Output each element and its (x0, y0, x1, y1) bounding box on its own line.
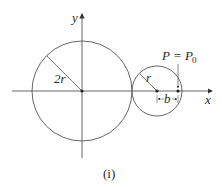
origin-dot (80, 89, 83, 92)
point-label: P = P (161, 48, 193, 63)
large-radius-label: 2r (54, 71, 67, 86)
x-axis-label: x (204, 92, 211, 107)
point-p (176, 89, 179, 92)
point-label-subscript: 0 (192, 55, 197, 65)
figure-caption: (i) (103, 166, 115, 181)
small-center-dot (155, 89, 158, 92)
small-radius-label: r (146, 70, 152, 85)
distance-b-label: b (164, 91, 171, 106)
y-axis-label: y (70, 10, 78, 25)
diagram-canvas: y x 2r r b P = P 0 (i) (0, 0, 222, 187)
